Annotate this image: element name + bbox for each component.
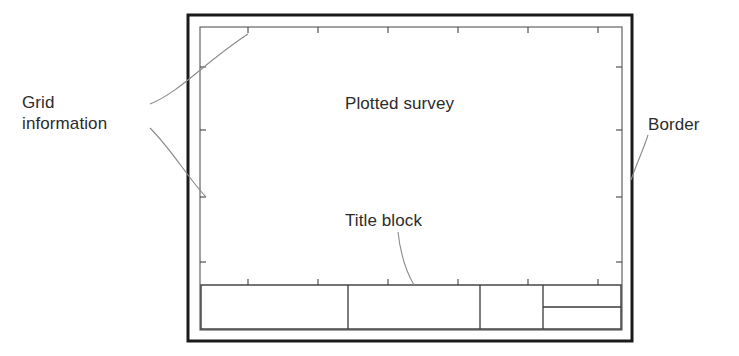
- grid-ticks-right: [616, 67, 622, 262]
- leader-border: [631, 135, 648, 180]
- label-grid-information: Grid information: [22, 92, 107, 134]
- grid-ticks-top: [248, 27, 598, 33]
- grid-ticks-titleblock-top: [248, 279, 598, 285]
- outer-border-rect: [188, 15, 632, 341]
- label-border: Border: [648, 114, 700, 135]
- grid-ticks-left: [200, 67, 206, 262]
- label-plotted-survey: Plotted survey: [345, 93, 454, 114]
- leader-grid-information-lower: [150, 128, 206, 197]
- drawing-sheet-graphic: [0, 0, 739, 356]
- diagram-canvas: Grid information Border Plotted survey T…: [0, 0, 739, 356]
- label-title-block: Title block: [345, 210, 422, 231]
- leader-grid-information-upper: [150, 34, 248, 104]
- title-block-dividers: [348, 285, 543, 329]
- leader-title-block: [398, 232, 414, 285]
